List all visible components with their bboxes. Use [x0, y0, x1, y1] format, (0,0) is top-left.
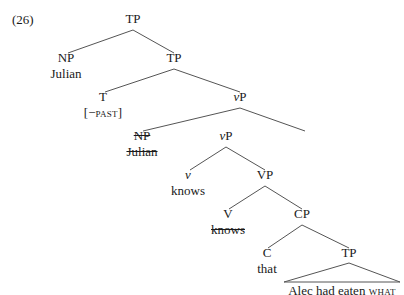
word-that: that [257, 262, 277, 276]
word-julian-copy: Julian [126, 145, 157, 159]
embedded-clause: Alec had eaten what [288, 284, 396, 295]
node-tp-embedded: TP [341, 246, 356, 260]
example-number: (26) [12, 12, 34, 28]
word-julian: Julian [50, 67, 81, 81]
node-tp-root: TP [125, 12, 140, 26]
tense-feature: [−past] [84, 106, 122, 120]
node-np-subject: NP [58, 51, 75, 65]
node-VP: VP [257, 168, 274, 182]
word-knows: knows [171, 184, 205, 198]
node-np-copy: NP [134, 129, 151, 143]
node-C: C [263, 246, 272, 260]
word-knows-copy: knows [211, 223, 245, 237]
node-V: V [223, 207, 232, 221]
node-little-v: v [185, 168, 191, 182]
node-vp-upper: vP [233, 90, 246, 104]
node-t: T [99, 90, 107, 104]
node-vp-lower: vP [219, 129, 232, 143]
node-CP: CP [294, 207, 310, 221]
node-tp-bar: TP [166, 51, 181, 65]
